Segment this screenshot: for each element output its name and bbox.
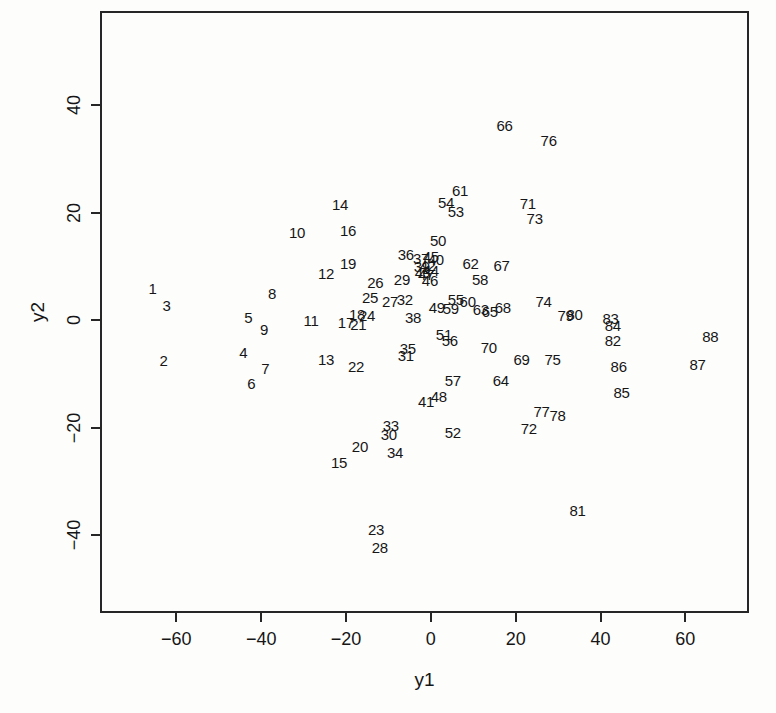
- point-label: 66: [497, 117, 513, 132]
- point-label: 13: [318, 352, 334, 367]
- y-tick-label: −20: [64, 412, 85, 443]
- x-tick-mark: [345, 613, 347, 622]
- point-label: 48: [431, 388, 447, 403]
- y-tick-mark: [91, 104, 100, 106]
- point-label: 28: [372, 540, 388, 555]
- y-axis-title: y2: [27, 302, 49, 322]
- point-label: 87: [690, 356, 706, 371]
- point-label: 68: [495, 300, 511, 315]
- point-label: 74: [536, 294, 552, 309]
- point-label: 64: [493, 372, 509, 387]
- point-label: 15: [331, 455, 347, 470]
- x-tick-label: 20: [506, 629, 526, 650]
- point-label: 72: [521, 421, 537, 436]
- x-tick-mark: [600, 613, 602, 622]
- point-label: 7: [261, 360, 269, 375]
- point-label: 88: [702, 329, 718, 344]
- point-label: 76: [541, 132, 557, 147]
- point-label: 71: [520, 195, 536, 210]
- point-label: 10: [289, 225, 305, 240]
- point-label: 1: [148, 281, 156, 296]
- x-tick-mark: [515, 613, 517, 622]
- x-tick-mark: [260, 613, 262, 622]
- point-label: 86: [611, 358, 627, 373]
- point-label: 25: [362, 290, 378, 305]
- y-tick-label: 40: [64, 95, 85, 115]
- point-label: 24: [359, 308, 375, 323]
- x-tick-mark: [430, 613, 432, 622]
- point-label: 35: [400, 340, 416, 355]
- x-axis-title: y1: [414, 669, 434, 691]
- point-label: 52: [445, 424, 461, 439]
- point-label: 11: [304, 312, 319, 327]
- x-tick-mark: [684, 613, 686, 622]
- point-label: 5: [244, 310, 252, 325]
- point-label: 50: [430, 233, 446, 248]
- point-label: 19: [340, 256, 356, 271]
- point-label: 81: [569, 503, 585, 518]
- point-label: 16: [340, 222, 356, 237]
- y-tick-label: 20: [64, 203, 85, 223]
- y-tick-mark: [91, 319, 100, 321]
- point-label: 58: [472, 272, 488, 287]
- x-tick-label: 60: [675, 629, 695, 650]
- point-label: 26: [367, 275, 383, 290]
- point-label: 61: [452, 182, 468, 197]
- point-label: 14: [332, 197, 348, 212]
- point-label: 70: [481, 339, 497, 354]
- point-label: 73: [527, 211, 543, 226]
- point-label: 29: [394, 271, 410, 286]
- point-label: 80: [566, 307, 582, 322]
- point-label: 69: [513, 352, 529, 367]
- point-label: 59: [443, 301, 459, 316]
- x-tick-label: 40: [591, 629, 611, 650]
- point-label: 62: [463, 256, 479, 271]
- plot-area: 1234567891011121314151617181920212223242…: [100, 11, 749, 613]
- point-label: 27: [382, 294, 398, 309]
- x-tick-label: −40: [246, 629, 277, 650]
- point-label: 32: [397, 291, 413, 306]
- point-label: 47: [418, 267, 434, 282]
- point-label: 78: [550, 407, 566, 422]
- point-label: 34: [387, 444, 403, 459]
- point-label: 6: [247, 375, 255, 390]
- point-label: 36: [398, 247, 414, 262]
- y-tick-label: −40: [64, 520, 85, 551]
- point-label: 85: [614, 384, 630, 399]
- point-label: 20: [352, 439, 368, 454]
- y-tick-mark: [91, 427, 100, 429]
- point-label: 84: [605, 318, 621, 333]
- point-label: 33: [383, 417, 399, 432]
- scatter-plot-figure: 1234567891011121314151617181920212223242…: [0, 0, 776, 713]
- point-label: 67: [494, 257, 510, 272]
- point-label: 77: [533, 403, 549, 418]
- point-label: 56: [442, 332, 458, 347]
- point-label: 75: [544, 352, 560, 367]
- x-tick-mark: [175, 613, 177, 622]
- point-label: 4: [239, 345, 247, 360]
- point-label: 57: [445, 372, 461, 387]
- point-label: 2: [159, 352, 167, 367]
- point-label: 9: [260, 322, 268, 337]
- point-label: 3: [162, 298, 170, 313]
- point-label: 82: [605, 332, 621, 347]
- x-tick-label: −60: [161, 629, 192, 650]
- point-label: 12: [318, 266, 334, 281]
- x-tick-label: 0: [426, 629, 436, 650]
- y-tick-mark: [91, 212, 100, 214]
- point-label: 23: [368, 522, 384, 537]
- point-label: 45: [423, 249, 439, 264]
- y-tick-mark: [91, 534, 100, 536]
- x-tick-label: −20: [331, 629, 362, 650]
- y-tick-label: 0: [64, 315, 85, 325]
- point-label: 8: [268, 286, 276, 301]
- point-label: 22: [348, 358, 364, 373]
- point-label: 38: [405, 310, 421, 325]
